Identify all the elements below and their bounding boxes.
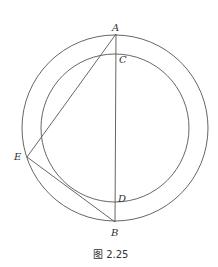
label-d: D (117, 193, 126, 204)
label-b: B (110, 227, 118, 238)
label-e: E (13, 151, 22, 162)
label-a: A (111, 22, 119, 33)
label-c: C (119, 54, 127, 65)
geometry-figure: A C E D B 图 2.25 (0, 0, 218, 267)
segment-eb (27, 157, 115, 222)
figure-caption: 图 2.25 (93, 249, 128, 260)
segment-ab (115, 34, 116, 222)
segment-ae (27, 34, 116, 157)
